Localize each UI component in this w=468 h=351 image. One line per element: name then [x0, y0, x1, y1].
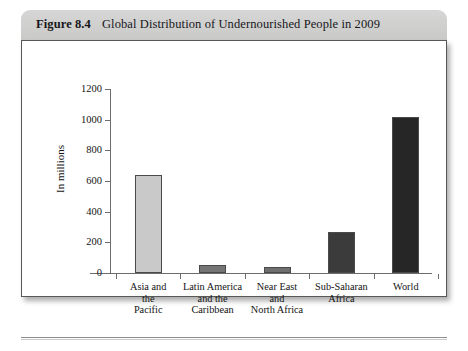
figure-title: Global Distribution of Undernourished Pe…: [102, 17, 380, 31]
bar-asia-and-the-pacific: [135, 175, 162, 273]
x-axis-category-label-line: Asia and: [112, 281, 184, 293]
x-axis-category-label-line: and the: [176, 293, 248, 305]
x-axis-category-label-line: Africa: [305, 293, 377, 305]
bars-layer: [22, 41, 446, 273]
x-axis-tick: [245, 274, 246, 279]
x-axis-category-label: Sub-SaharanAfrica: [305, 281, 377, 304]
x-axis-category-label-line: Near East: [241, 281, 313, 293]
x-axis-tick: [180, 274, 181, 279]
x-axis-category-label-line: North Africa: [241, 304, 313, 316]
figure-container: Figure 8.4Global Distribution of Underno…: [21, 10, 447, 298]
x-axis-tick: [116, 274, 117, 279]
bar-sub-saharan-africa: [328, 232, 355, 273]
x-axis-line: [90, 273, 432, 274]
x-axis-category-label-line: Caribbean: [176, 304, 248, 316]
chart-panel: 020040060080010001200 In millions Asia a…: [21, 40, 447, 297]
y-axis-tick: [105, 273, 111, 274]
figure-number: Figure 8.4: [36, 17, 91, 31]
figure-header-band: Figure 8.4Global Distribution of Underno…: [21, 10, 447, 41]
x-axis-tick: [374, 274, 375, 279]
bar-near-east-and-north-africa: [264, 267, 291, 273]
figure-caption: Figure 8.4Global Distribution of Underno…: [36, 17, 380, 32]
page-divider-rule-shadow: [21, 339, 447, 340]
x-axis-category-label: World: [370, 281, 442, 293]
bar-latin-america-and-the-caribbean: [199, 265, 226, 273]
x-axis-category-label: Near EastandNorth Africa: [241, 281, 313, 316]
page-divider-rule: [21, 337, 447, 338]
bar-world: [392, 117, 419, 273]
x-axis-category-label: Asia andthePacific: [112, 281, 184, 316]
x-axis-tick: [309, 274, 310, 279]
x-axis-category-label-line: Pacific: [112, 304, 184, 316]
x-axis-category-label-line: Latin America: [176, 281, 248, 293]
x-axis-tick: [438, 274, 439, 279]
x-axis-category-label-line: the: [112, 293, 184, 305]
chart-plot-area: 020040060080010001200 In millions Asia a…: [22, 41, 446, 296]
x-axis-category-label-line: World: [370, 281, 442, 293]
x-axis-category-label-line: and: [241, 293, 313, 305]
x-axis-category-label: Latin Americaand theCaribbean: [176, 281, 248, 316]
x-axis-category-label-line: Sub-Saharan: [305, 281, 377, 293]
